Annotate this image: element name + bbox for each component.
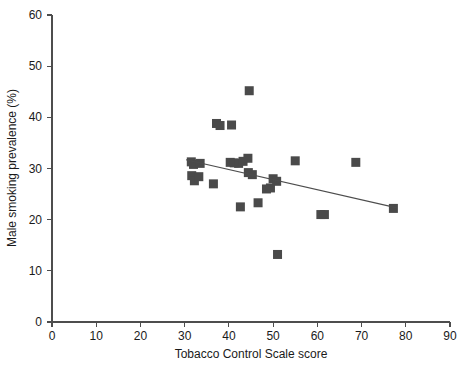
data-point xyxy=(245,86,254,95)
x-axis-label: Tobacco Control Scale score xyxy=(175,347,328,361)
x-tick-label: 80 xyxy=(399,329,413,343)
y-tick-label: 20 xyxy=(29,213,43,227)
x-tick-label: 0 xyxy=(49,329,56,343)
y-tick-label: 60 xyxy=(29,8,43,22)
data-points-group xyxy=(187,86,398,259)
y-axis-group: 0102030405060 xyxy=(29,8,52,329)
chart-canvas: 0102030405060 0102030405060708090 Tobacc… xyxy=(0,0,467,371)
data-point xyxy=(273,250,282,259)
data-point xyxy=(291,156,300,165)
x-tick-group: 0102030405060708090 xyxy=(49,322,457,343)
data-point xyxy=(351,158,360,167)
data-point xyxy=(389,204,398,213)
x-tick-label: 70 xyxy=(355,329,369,343)
data-point xyxy=(194,172,203,181)
data-point xyxy=(227,121,236,130)
x-tick-label: 60 xyxy=(311,329,325,343)
x-tick-label: 40 xyxy=(222,329,236,343)
y-tick-label: 40 xyxy=(29,110,43,124)
x-tick-label: 10 xyxy=(90,329,104,343)
y-tick-group: 0102030405060 xyxy=(29,8,52,329)
y-axis-label: Male smoking prevalence (%) xyxy=(5,89,19,247)
x-tick-label: 20 xyxy=(134,329,148,343)
data-point xyxy=(216,121,225,130)
x-axis-group: 0102030405060708090 xyxy=(49,322,457,343)
data-point xyxy=(243,154,252,163)
y-tick-label: 50 xyxy=(29,59,43,73)
y-tick-label: 10 xyxy=(29,264,43,278)
scatter-plot-figure: 0102030405060 0102030405060708090 Tobacc… xyxy=(0,0,467,371)
data-point xyxy=(244,168,253,177)
y-tick-label: 30 xyxy=(29,162,43,176)
x-tick-label: 90 xyxy=(443,329,457,343)
data-point xyxy=(320,210,329,219)
data-point xyxy=(209,179,218,188)
x-tick-label: 50 xyxy=(266,329,280,343)
x-tick-label: 30 xyxy=(178,329,192,343)
data-point xyxy=(254,198,263,207)
y-tick-label: 0 xyxy=(35,315,42,329)
data-point xyxy=(236,202,245,211)
